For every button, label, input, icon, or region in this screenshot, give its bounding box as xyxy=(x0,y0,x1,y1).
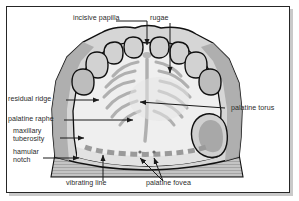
incisive-papilla-mark xyxy=(143,52,152,58)
label-hamular-notch-line2: notch xyxy=(13,156,31,164)
label-residual-ridge: residual ridge xyxy=(8,95,51,103)
label-palatine-fovea: palatine fovea xyxy=(146,179,191,187)
tooth-central-right xyxy=(150,37,169,58)
figure-frame: incisive papilla rugae residual ridge pa… xyxy=(6,6,290,193)
label-maxillary-tuberosity-line2: tuberosity xyxy=(13,135,44,143)
label-rugae: rugae xyxy=(150,14,168,22)
label-palatine-torus: palatine torus xyxy=(231,104,274,112)
tooth-premolar-left xyxy=(72,69,94,95)
label-incisive-papilla: incisive papilla xyxy=(73,14,120,22)
label-palatine-raphe: palatine raphe xyxy=(8,115,54,123)
tooth-central-left xyxy=(124,37,143,58)
palatine-fovea-left xyxy=(138,150,141,153)
label-vibrating-line: vibrating line xyxy=(66,179,107,187)
tooth-premolar-right xyxy=(199,69,221,95)
figure-container: incisive papilla rugae residual ridge pa… xyxy=(0,0,299,201)
palatine-torus-bulge xyxy=(129,77,189,121)
palatine-fovea-right xyxy=(152,150,155,153)
